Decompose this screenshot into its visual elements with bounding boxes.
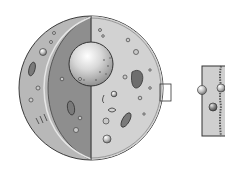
vesicle-right [111,91,117,97]
nucleus [69,42,113,86]
cytoplasm [91,16,163,160]
large-vesicle [103,135,111,143]
membrane-inset [198,66,226,136]
cell-diagram [0,0,225,173]
